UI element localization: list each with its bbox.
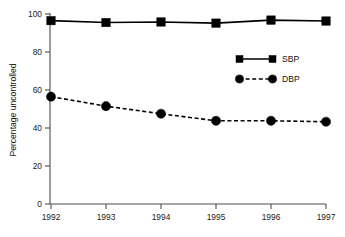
data-point-dbp-1992[interactable] (46, 92, 55, 101)
legend-label-dbp: DBP (282, 74, 300, 84)
y-tick-label-40: 40 (33, 123, 43, 133)
data-point-sbp-1995[interactable] (212, 19, 220, 27)
data-point-dbp-1997[interactable] (321, 117, 330, 126)
y-tick-label-0: 0 (37, 199, 42, 209)
data-point-sbp-1994[interactable] (157, 18, 165, 26)
x-tick-label-1997: 1997 (317, 212, 336, 222)
data-point-sbp-1992[interactable] (47, 16, 55, 24)
line-chart: Percentage uncontrolled 100 80 60 40 20 … (0, 0, 345, 237)
x-tick-label-1996: 1996 (262, 212, 281, 222)
legend-label-sbp: SBP (282, 54, 299, 64)
series-layer (46, 16, 330, 126)
data-point-dbp-1994[interactable] (156, 109, 165, 118)
series-dbp (46, 92, 330, 126)
series-line-sbp (51, 20, 326, 23)
y-axis-title: Percentage uncontrolled (8, 63, 18, 156)
legend-marker-circle-icon (235, 75, 243, 83)
y-tick-label-60: 60 (33, 85, 43, 95)
y-axis-ticks: 100 80 60 40 20 0 (28, 9, 50, 209)
y-tick-label-100: 100 (28, 9, 42, 19)
chart-container: Percentage uncontrolled 100 80 60 40 20 … (0, 0, 345, 237)
y-tick-label-20: 20 (33, 161, 43, 171)
data-point-dbp-1993[interactable] (101, 102, 110, 111)
series-sbp (47, 16, 330, 27)
legend-marker-circle-icon (268, 75, 276, 83)
y-tick-label-80: 80 (33, 47, 43, 57)
data-point-dbp-1995[interactable] (211, 116, 220, 125)
x-tick-label-1995: 1995 (207, 212, 226, 222)
data-point-sbp-1997[interactable] (322, 17, 330, 25)
x-tick-label-1994: 1994 (152, 212, 171, 222)
x-tick-label-1993: 1993 (97, 212, 116, 222)
legend: SBP DBP (235, 54, 300, 84)
legend-marker-square-icon (269, 56, 276, 63)
legend-marker-square-icon (236, 56, 243, 63)
x-tick-label-1992: 1992 (42, 212, 61, 222)
data-point-sbp-1993[interactable] (102, 18, 110, 26)
x-axis-ticks: 1992 1993 1994 1995 1996 1997 (42, 204, 336, 222)
data-point-dbp-1996[interactable] (266, 116, 275, 125)
legend-item-sbp[interactable]: SBP (236, 54, 299, 64)
legend-item-dbp[interactable]: DBP (235, 74, 300, 84)
data-point-sbp-1996[interactable] (267, 16, 275, 24)
series-line-dbp (51, 97, 326, 122)
